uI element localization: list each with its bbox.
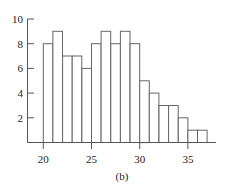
histogram-bar <box>169 106 179 143</box>
y-axis-ticks: 246810 <box>12 13 34 124</box>
chart-caption: (b) <box>116 170 129 183</box>
x-tick-label: 25 <box>86 153 98 165</box>
x-axis-ticks: 20253035 <box>38 143 194 166</box>
histogram-chart: 246810 20253035 (b) <box>0 0 227 190</box>
y-tick-label: 8 <box>18 38 24 50</box>
histogram-bar <box>72 56 82 143</box>
histogram-bar <box>82 68 92 142</box>
histogram-bar <box>198 130 208 142</box>
histogram-bar <box>188 130 198 142</box>
x-tick-label: 35 <box>182 153 194 165</box>
histogram-bar <box>130 44 140 143</box>
histogram-bar <box>178 118 188 143</box>
histogram-bar <box>149 93 159 142</box>
histogram-bar <box>63 56 73 143</box>
histogram-bar <box>111 44 121 143</box>
histogram-bar <box>101 31 111 142</box>
histogram-bar <box>53 31 63 142</box>
histogram-bar <box>43 44 53 143</box>
histogram-bar <box>92 44 102 143</box>
histogram-bars <box>43 31 207 142</box>
x-tick-label: 20 <box>38 153 50 165</box>
y-tick-label: 4 <box>18 87 24 99</box>
histogram-bar <box>159 106 169 143</box>
histogram-bar <box>120 31 130 142</box>
x-tick-label: 30 <box>134 153 146 165</box>
y-tick-label: 6 <box>18 62 24 74</box>
y-tick-label: 10 <box>12 13 24 25</box>
histogram-bar <box>140 81 150 143</box>
y-tick-label: 2 <box>18 112 24 124</box>
